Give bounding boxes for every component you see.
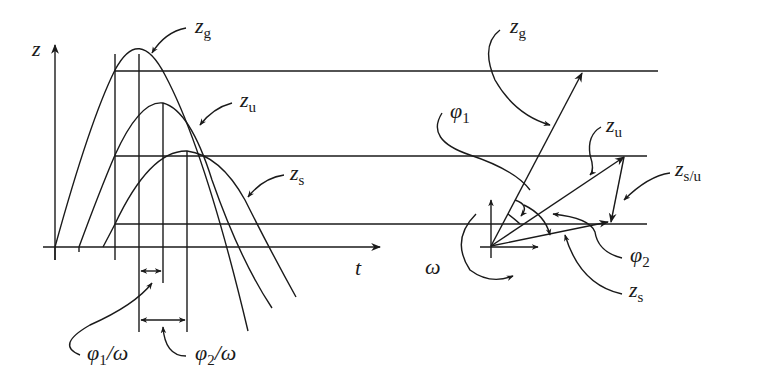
label-zu-vector: zu [605, 112, 623, 140]
vector-zg [491, 73, 582, 246]
phasor-diagram: z t zg zu zs φ1/ω φ2/ω zg zu zs/u zs φ1 … [0, 0, 760, 381]
label-zs-vector: zs [628, 277, 644, 305]
label-phi2-omega: φ2/ω [195, 340, 236, 368]
curve-zu [79, 103, 272, 308]
label-omega: ω [425, 254, 441, 279]
curve-zg [55, 49, 248, 331]
label-phi2: φ2 [630, 242, 650, 270]
vector-zsu [611, 157, 624, 222]
label-zg-curve: zg [194, 13, 212, 41]
z-axis-label: z [31, 36, 41, 61]
label-zu-curve: zu [239, 87, 257, 115]
label-phi1: φ1 [450, 98, 470, 126]
label-zsu-vector: zs/u [674, 156, 702, 184]
t-axis-label: t [355, 255, 362, 280]
label-phi1-omega: φ1/ω [87, 340, 128, 368]
label-zg-vector: zg [509, 13, 527, 41]
label-zs-curve: zs [289, 160, 305, 188]
